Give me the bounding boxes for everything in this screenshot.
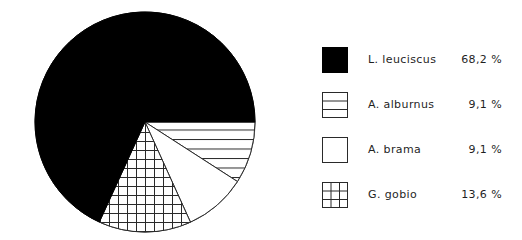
legend-label: L. leuciscus (368, 53, 436, 66)
legend-value: 68,2 % (436, 53, 502, 66)
legend: L. leuciscus 68,2 % A. alburnus 9,1 % A.… (318, 44, 518, 224)
legend-item-a-brama[interactable]: A. brama 9,1 % (318, 137, 518, 165)
legend-value: 9,1 % (436, 143, 502, 156)
legend-label: G. gobio (368, 188, 417, 201)
legend-label: A. alburnus (368, 98, 434, 111)
solid-black-swatch (322, 47, 348, 73)
blank-white-swatch (322, 137, 348, 163)
legend-item-l-leuciscus[interactable]: L. leuciscus 68,2 % (318, 47, 518, 75)
legend-item-g-gobio[interactable]: G. gobio 13,6 % (318, 182, 518, 210)
legend-value: 9,1 % (436, 98, 502, 111)
legend-value: 13,6 % (436, 188, 502, 201)
legend-item-a-alburnus[interactable]: A. alburnus 9,1 % (318, 92, 518, 120)
horizontal-lines-swatch (322, 92, 348, 118)
pie-chart-plot-area (28, 6, 268, 236)
pie-chart-svg (28, 6, 268, 236)
pie-chart-figure: L. leuciscus 68,2 % A. alburnus 9,1 % A.… (0, 0, 522, 240)
crosshatch-grid-swatch (322, 182, 348, 208)
legend-label: A. brama (368, 143, 421, 156)
